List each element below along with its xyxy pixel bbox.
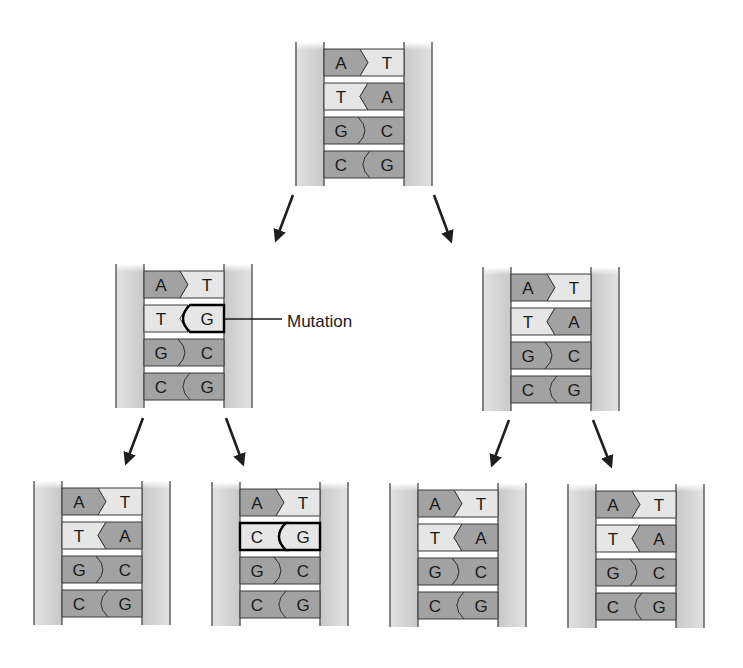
- base-label: T: [298, 494, 308, 513]
- base-label: A: [381, 88, 393, 107]
- granddaughter-dna-2-mutant: ATCGGCCG: [212, 482, 348, 626]
- mutated-daughter-dna: ATTGGCCG: [116, 264, 252, 408]
- base-label: A: [475, 529, 487, 548]
- base-label: T: [569, 279, 579, 298]
- base-label: G: [296, 596, 309, 615]
- base-label: C: [155, 378, 167, 397]
- base-pair-GC: GC: [62, 556, 142, 583]
- base-label: C: [73, 595, 85, 614]
- base-label: T: [523, 313, 533, 332]
- base-pair-GC: GC: [144, 339, 224, 366]
- base-pair-TG: TG: [144, 305, 224, 332]
- base-label: T: [120, 493, 130, 512]
- backbone-right: [591, 267, 619, 411]
- base-label: A: [155, 276, 167, 295]
- base-label: T: [202, 276, 212, 295]
- base-label: T: [430, 529, 440, 548]
- base-label: T: [382, 54, 392, 73]
- base-pair-AT: AT: [324, 49, 404, 76]
- base-label: C: [201, 344, 213, 363]
- base-label: C: [251, 596, 263, 615]
- base-label: A: [522, 279, 534, 298]
- base-pair-CG: CG: [62, 590, 142, 617]
- base-label: A: [568, 313, 580, 332]
- base-label: A: [653, 530, 665, 549]
- base-label: G: [72, 561, 85, 580]
- base-pair-TA: TA: [324, 83, 404, 110]
- base-label: G: [380, 156, 393, 175]
- backbone-left: [483, 267, 511, 411]
- base-label: C: [522, 381, 534, 400]
- base-label: C: [251, 528, 263, 547]
- base-label: T: [156, 310, 166, 329]
- base-label: T: [336, 88, 346, 107]
- mutation-label: Mutation: [287, 312, 352, 331]
- arrow-parent-to-left: [276, 195, 293, 240]
- base-pair-GC: GC: [240, 557, 320, 584]
- backbone-right: [676, 484, 704, 628]
- backbone-left: [34, 481, 62, 625]
- base-label: G: [200, 378, 213, 397]
- base-label: C: [607, 598, 619, 617]
- parent-dna: ATTAGCCG: [296, 42, 432, 186]
- granddaughter-dna-4: ATTAGCCG: [568, 484, 704, 628]
- base-pair-TA: TA: [62, 522, 142, 549]
- base-label: G: [118, 595, 131, 614]
- base-pair-GC: GC: [596, 559, 676, 586]
- base-label: G: [154, 344, 167, 363]
- base-label: C: [119, 561, 131, 580]
- base-pair-GC: GC: [511, 342, 591, 369]
- base-label: A: [335, 54, 347, 73]
- base-label: G: [200, 310, 213, 329]
- arrow-parent-to-right: [434, 195, 451, 241]
- base-label: C: [335, 156, 347, 175]
- backbone-right: [498, 483, 526, 627]
- base-label: T: [74, 527, 84, 546]
- arrow-left-to-gen2-2: [226, 418, 243, 464]
- base-label: C: [475, 563, 487, 582]
- arrow-right-to-gen2-4: [593, 420, 611, 466]
- base-label: A: [251, 494, 263, 513]
- base-pair-GC: GC: [324, 117, 404, 144]
- base-label: A: [607, 496, 619, 515]
- base-label: T: [476, 495, 486, 514]
- base-label: G: [250, 562, 263, 581]
- base-pair-CG: CG: [596, 593, 676, 620]
- base-pair-TA: TA: [511, 308, 591, 335]
- base-label: G: [428, 563, 441, 582]
- base-pair-AT: AT: [596, 491, 676, 518]
- base-label: G: [606, 564, 619, 583]
- base-label: T: [608, 530, 618, 549]
- normal-daughter-dna: ATTAGCCG: [483, 267, 619, 411]
- base-pair-AT: AT: [418, 490, 498, 517]
- dna-replication-mutation-diagram: ATTAGCCGATTGGCCGATTAGCCGATTAGCCGATCGGCCG…: [0, 0, 743, 668]
- base-label: G: [567, 381, 580, 400]
- base-pair-CG: CG: [144, 373, 224, 400]
- base-label: G: [521, 347, 534, 366]
- base-label: C: [653, 564, 665, 583]
- arrow-left-to-gen2-1: [126, 418, 143, 463]
- base-pair-CG: CG: [240, 523, 320, 550]
- base-label: A: [119, 527, 131, 546]
- base-label: C: [297, 562, 309, 581]
- base-pair-CG: CG: [240, 591, 320, 618]
- base-label: G: [296, 528, 309, 547]
- base-label: C: [568, 347, 580, 366]
- backbone-right: [224, 264, 252, 408]
- base-pair-GC: GC: [418, 558, 498, 585]
- backbone-right: [320, 482, 348, 626]
- base-label: G: [334, 122, 347, 141]
- backbone-right: [404, 42, 432, 186]
- base-pair-CG: CG: [324, 151, 404, 178]
- base-label: A: [429, 495, 441, 514]
- base-pair-AT: AT: [144, 271, 224, 298]
- base-pair-TA: TA: [418, 524, 498, 551]
- granddaughter-dna-3: ATTAGCCG: [390, 483, 526, 627]
- base-pair-AT: AT: [511, 274, 591, 301]
- base-label: T: [654, 496, 664, 515]
- backbone-left: [390, 483, 418, 627]
- backbone-left: [116, 264, 144, 408]
- backbone-left: [568, 484, 596, 628]
- base-pair-CG: CG: [418, 592, 498, 619]
- base-pair-TA: TA: [596, 525, 676, 552]
